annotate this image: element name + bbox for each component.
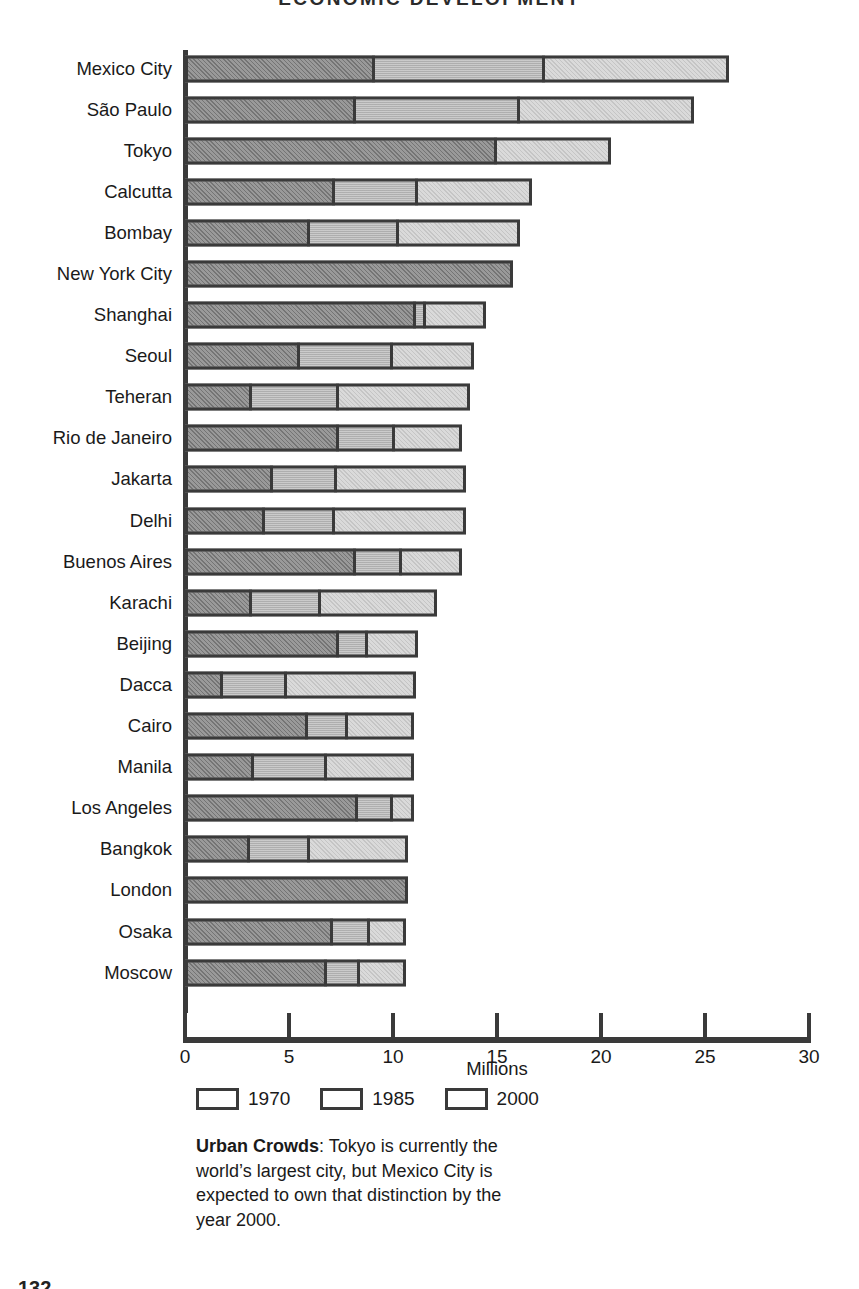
bar-segment-2000 (423, 302, 486, 329)
bar-segment-1985 (249, 384, 339, 411)
bar-segment-2000 (336, 384, 470, 411)
legend-item-1985[interactable]: 1985 (320, 1088, 414, 1110)
bar-segment-1970 (185, 836, 250, 863)
category-label: Los Angeles (0, 797, 172, 819)
category-label: Calcutta (0, 181, 172, 203)
bar-segment-1985 (305, 713, 347, 740)
bar-segment-2000 (399, 548, 462, 575)
chart-row: Dacca (0, 664, 859, 705)
x-axis-title: Millions (183, 1058, 811, 1080)
bar-chart: Mexico CitySão PauloTokyoCalcuttaBombayN… (0, 48, 859, 1013)
stacked-bar (185, 836, 408, 863)
stacked-bar (185, 713, 414, 740)
bar-segment-2000 (334, 466, 466, 493)
chart-row: Beijing (0, 623, 859, 664)
bar-segment-2000 (365, 630, 418, 657)
category-label: Rio de Janeiro (0, 427, 172, 449)
chart-row: Shanghai (0, 295, 859, 336)
stacked-bar (185, 302, 486, 329)
category-label: São Paulo (0, 99, 172, 121)
bar-segment-1970 (185, 178, 335, 205)
category-label: Bangkok (0, 838, 172, 860)
category-label: Teheran (0, 386, 172, 408)
bar-segment-1970 (185, 877, 408, 904)
category-label: Seoul (0, 345, 172, 367)
bar-segment-2000 (324, 754, 414, 781)
bar-segment-1970 (185, 425, 339, 452)
chart-row: Mexico City (0, 48, 859, 89)
bar-segment-1985 (270, 466, 337, 493)
bar-segment-2000 (392, 425, 461, 452)
bar-segment-1985 (262, 507, 335, 534)
chart-row: Buenos Aires (0, 541, 859, 582)
bar-segment-2000 (345, 713, 414, 740)
chart-row: Bangkok (0, 829, 859, 870)
bar-segment-1985 (297, 343, 393, 370)
category-label: Cairo (0, 715, 172, 737)
category-label: Osaka (0, 921, 172, 943)
chart-caption: Urban Crowds: Tokyo is currently the wor… (196, 1134, 526, 1232)
chart-row: Manila (0, 747, 859, 788)
bar-segment-2000 (415, 178, 532, 205)
legend-label: 1985 (372, 1088, 414, 1110)
chart-row: Bombay (0, 212, 859, 253)
bar-segment-2000 (517, 96, 694, 123)
bar-segment-1985 (249, 589, 320, 616)
stacked-bar (185, 96, 694, 123)
category-label: Delhi (0, 510, 172, 532)
x-axis-tick (703, 1013, 707, 1038)
category-label: Dacca (0, 674, 172, 696)
legend-item-2000[interactable]: 2000 (445, 1088, 539, 1110)
chart-row: Los Angeles (0, 788, 859, 829)
bar-segment-2000 (396, 219, 519, 246)
chart-row: New York City (0, 253, 859, 294)
stacked-bar (185, 261, 513, 288)
x-axis-tick (391, 1013, 395, 1038)
bar-segment-1985 (247, 836, 310, 863)
stacked-bar (185, 178, 532, 205)
bar-segment-1970 (185, 302, 416, 329)
bar-segment-1970 (185, 343, 300, 370)
bar-segment-1985 (372, 55, 545, 82)
legend-label: 1970 (248, 1088, 290, 1110)
category-label: Jakarta (0, 468, 172, 490)
bar-segment-2000 (542, 55, 729, 82)
bar-segment-1970 (185, 754, 254, 781)
bar-segment-1985 (353, 96, 520, 123)
stacked-bar (185, 219, 520, 246)
bar-segment-1970 (185, 384, 252, 411)
legend-item-1970[interactable]: 1970 (196, 1088, 290, 1110)
bar-segment-1970 (185, 507, 265, 534)
x-axis-tick (807, 1013, 811, 1038)
stacked-bar (185, 959, 406, 986)
bar-segment-1970 (185, 959, 327, 986)
bar-segment-1970 (185, 137, 497, 164)
bar-segment-1970 (185, 548, 356, 575)
category-label: Bombay (0, 222, 172, 244)
bar-segment-2000 (494, 137, 611, 164)
stacked-bar (185, 630, 418, 657)
stacked-bar (185, 384, 470, 411)
chart-row: Delhi (0, 500, 859, 541)
bar-segment-2000 (284, 671, 416, 698)
chart-row: São Paulo (0, 89, 859, 130)
stacked-bar (185, 425, 462, 452)
bar-segment-1985 (353, 548, 402, 575)
category-label: London (0, 879, 172, 901)
legend-swatch-icon (196, 1088, 239, 1110)
stacked-bar (185, 466, 466, 493)
bar-segment-2000 (307, 836, 407, 863)
bar-segment-2000 (367, 918, 405, 945)
bar-segment-2000 (390, 795, 414, 822)
bar-segment-1985 (336, 425, 395, 452)
chart-rows: Mexico CitySão PauloTokyoCalcuttaBombayN… (0, 48, 859, 993)
x-axis: 051015202530 (183, 1013, 811, 1014)
category-label: Karachi (0, 592, 172, 614)
x-axis-tick (183, 1013, 187, 1038)
stacked-bar (185, 671, 416, 698)
stacked-bar (185, 795, 414, 822)
caption-lead: Urban Crowds (196, 1136, 319, 1156)
stacked-bar (185, 548, 462, 575)
bar-segment-1970 (185, 589, 252, 616)
page-title: ECONOMIC DEVELOPMENT (0, 0, 859, 10)
